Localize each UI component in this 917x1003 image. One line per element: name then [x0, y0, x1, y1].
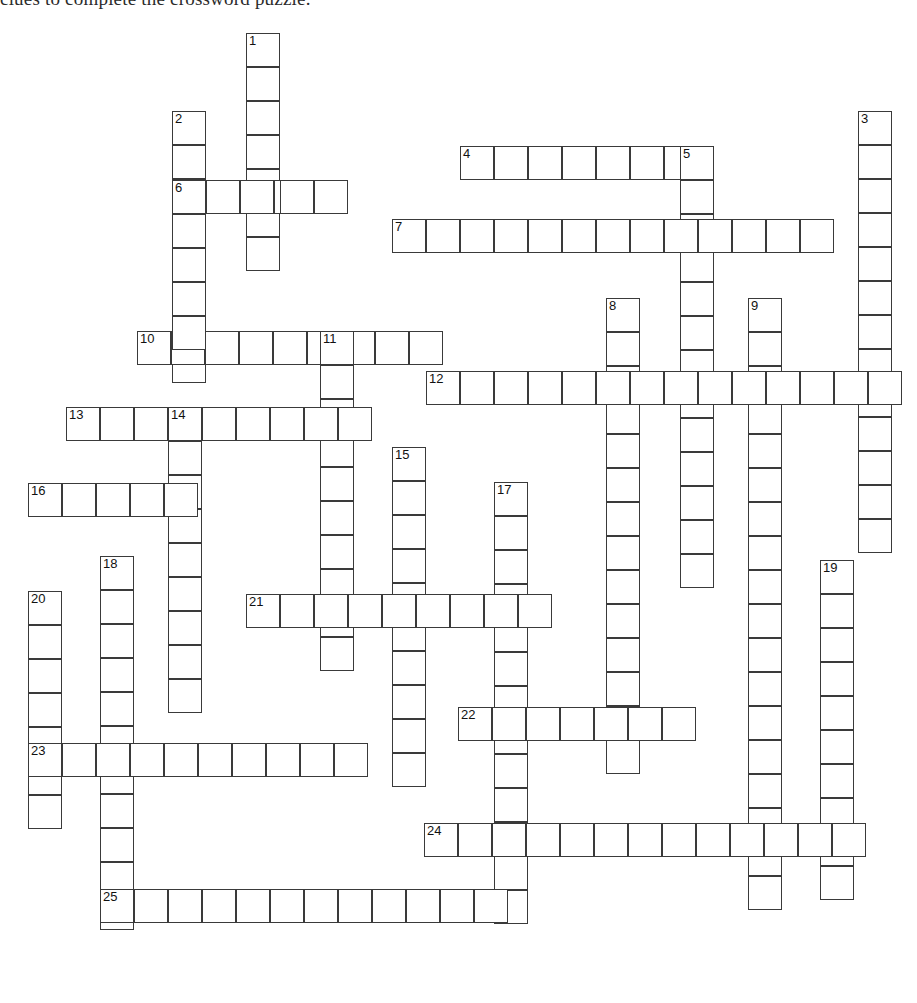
crossword-cell[interactable]	[594, 707, 628, 741]
crossword-cell[interactable]	[392, 685, 426, 719]
crossword-cell[interactable]: 12	[426, 371, 460, 405]
crossword-cell[interactable]	[240, 180, 274, 214]
crossword-cell[interactable]: 18	[100, 556, 134, 590]
crossword-cell[interactable]: 14	[168, 407, 202, 441]
crossword-cell[interactable]	[696, 823, 730, 857]
crossword-cell[interactable]: 10	[137, 331, 171, 365]
crossword-cell[interactable]	[820, 628, 854, 662]
crossword-cell[interactable]	[606, 604, 640, 638]
crossword-cell[interactable]	[820, 764, 854, 798]
crossword-cell[interactable]	[664, 219, 698, 253]
crossword-cell[interactable]	[484, 594, 518, 628]
crossword-cell[interactable]	[164, 743, 198, 777]
crossword-cell[interactable]	[280, 180, 314, 214]
crossword-cell[interactable]	[338, 889, 372, 923]
crossword-cell[interactable]	[858, 417, 892, 451]
crossword-cell[interactable]	[748, 536, 782, 570]
crossword-cell[interactable]	[820, 730, 854, 764]
crossword-cell[interactable]	[562, 219, 596, 253]
crossword-cell[interactable]	[494, 146, 528, 180]
crossword-cell[interactable]	[492, 823, 526, 857]
crossword-cell[interactable]	[748, 774, 782, 808]
crossword-cell[interactable]	[596, 146, 630, 180]
crossword-cell[interactable]	[858, 179, 892, 213]
crossword-cell[interactable]	[730, 823, 764, 857]
crossword-cell[interactable]	[246, 67, 280, 101]
crossword-cell[interactable]	[100, 692, 134, 726]
crossword-cell[interactable]	[28, 693, 62, 727]
crossword-cell[interactable]	[748, 502, 782, 536]
crossword-cell[interactable]	[392, 549, 426, 583]
crossword-cell[interactable]	[748, 434, 782, 468]
crossword-cell[interactable]	[62, 743, 96, 777]
crossword-cell[interactable]	[732, 371, 766, 405]
crossword-cell[interactable]	[314, 594, 348, 628]
crossword-cell[interactable]	[392, 515, 426, 549]
crossword-cell[interactable]	[528, 371, 562, 405]
crossword-cell[interactable]	[266, 743, 300, 777]
crossword-cell[interactable]	[698, 219, 732, 253]
crossword-cell[interactable]	[100, 407, 134, 441]
crossword-cell[interactable]: 8	[606, 298, 640, 332]
crossword-cell[interactable]: 22	[458, 707, 492, 741]
crossword-cell[interactable]	[562, 146, 596, 180]
crossword-cell[interactable]	[800, 371, 834, 405]
crossword-cell[interactable]	[494, 550, 528, 584]
crossword-cell[interactable]	[348, 594, 382, 628]
crossword-cell[interactable]	[168, 441, 202, 475]
crossword-cell[interactable]	[280, 594, 314, 628]
crossword-cell[interactable]	[494, 788, 528, 822]
crossword-cell[interactable]	[450, 594, 484, 628]
crossword-cell[interactable]	[62, 483, 96, 517]
crossword-cell[interactable]	[832, 823, 866, 857]
crossword-cell[interactable]	[820, 662, 854, 696]
crossword-cell[interactable]	[606, 502, 640, 536]
crossword-cell[interactable]	[680, 452, 714, 486]
crossword-cell[interactable]	[494, 371, 528, 405]
crossword-cell[interactable]	[28, 795, 62, 829]
crossword-cell[interactable]	[858, 145, 892, 179]
crossword-cell[interactable]: 1	[246, 33, 280, 67]
crossword-cell[interactable]	[858, 451, 892, 485]
crossword-cell[interactable]	[858, 315, 892, 349]
crossword-cell[interactable]	[748, 400, 782, 434]
crossword-cell[interactable]: 2	[172, 111, 206, 145]
crossword-cell[interactable]	[205, 331, 239, 365]
crossword-cell[interactable]	[246, 101, 280, 135]
crossword-cell[interactable]	[680, 418, 714, 452]
crossword-cell[interactable]	[304, 889, 338, 923]
crossword-cell[interactable]	[526, 823, 560, 857]
crossword-cell[interactable]	[560, 707, 594, 741]
crossword-cell[interactable]: 20	[28, 591, 62, 625]
crossword-cell[interactable]: 3	[858, 111, 892, 145]
crossword-cell[interactable]	[820, 866, 854, 900]
crossword-cell[interactable]	[246, 237, 280, 271]
crossword-cell[interactable]	[606, 400, 640, 434]
crossword-cell[interactable]	[304, 407, 338, 441]
crossword-cell[interactable]	[680, 180, 714, 214]
crossword-cell[interactable]	[494, 516, 528, 550]
crossword-cell[interactable]	[300, 743, 334, 777]
crossword-cell[interactable]	[134, 407, 168, 441]
crossword-cell[interactable]	[528, 219, 562, 253]
crossword-cell[interactable]	[858, 519, 892, 553]
crossword-cell[interactable]: 19	[820, 560, 854, 594]
crossword-cell[interactable]	[662, 707, 696, 741]
crossword-cell[interactable]	[232, 743, 266, 777]
crossword-cell[interactable]	[334, 743, 368, 777]
crossword-cell[interactable]	[858, 213, 892, 247]
crossword-cell[interactable]: 16	[28, 483, 62, 517]
crossword-cell[interactable]	[392, 719, 426, 753]
crossword-cell[interactable]	[130, 743, 164, 777]
crossword-cell[interactable]	[606, 570, 640, 604]
crossword-cell[interactable]	[320, 535, 354, 569]
crossword-cell[interactable]	[460, 219, 494, 253]
crossword-cell[interactable]	[606, 740, 640, 774]
crossword-cell[interactable]	[236, 889, 270, 923]
crossword-cell[interactable]	[392, 753, 426, 787]
crossword-cell[interactable]	[168, 543, 202, 577]
crossword-cell[interactable]	[270, 407, 304, 441]
crossword-cell[interactable]	[100, 590, 134, 624]
crossword-cell[interactable]	[382, 594, 416, 628]
crossword-cell[interactable]	[320, 501, 354, 535]
